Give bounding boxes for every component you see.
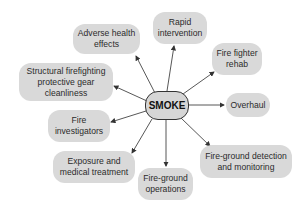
arrow-detection — [181, 118, 210, 146]
arrow-rapid — [167, 46, 174, 91]
arrow-structural — [114, 86, 147, 101]
arrow-adverse — [136, 56, 156, 95]
node-adverse-health-effects: Adverse health effects — [73, 24, 140, 54]
arrow-investigators — [111, 111, 146, 122]
node-fire-fighter-rehab: Fire fighter rehab — [212, 43, 262, 75]
node-overhaul: Overhaul — [226, 93, 270, 117]
node-smoke-center: SMOKE — [145, 91, 189, 120]
node-exposure-medical-treatment: Exposure and medical treatment — [53, 151, 135, 183]
node-fire-ground-detection-monitoring: Fire-ground detection and monitoring — [200, 145, 292, 178]
arrow-exposure — [132, 119, 152, 153]
node-structural-gear-cleanliness: Structural firefighting protective gear … — [19, 63, 113, 101]
node-fire-investigators: Fire investigators — [48, 110, 110, 142]
node-fire-ground-operations: Fire-ground operations — [138, 168, 193, 200]
arrow-rehab — [183, 72, 214, 94]
node-rapid-intervention: Rapid intervention — [153, 12, 207, 44]
